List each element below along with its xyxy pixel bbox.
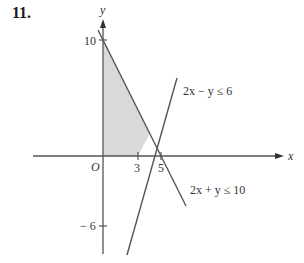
inequality-label-2x-plus-y: 2x + y ≤ 10	[190, 183, 245, 197]
tick-label-x-3: 3	[134, 161, 140, 175]
tick-label-y-10: 10	[84, 34, 96, 48]
y-axis-label: y	[99, 3, 106, 17]
inequality-label-2x-minus-y: 2x − y ≤ 6	[183, 84, 232, 98]
x-axis-arrow-icon	[275, 153, 284, 159]
y-axis-arrow-icon	[100, 19, 106, 28]
tick-label-x-5: 5	[158, 161, 164, 175]
linear-inequality-graph: 11. y x O 10 − 6 3 5 2x − y ≤ 6 2x + y ≤…	[0, 0, 304, 263]
feasible-region	[103, 40, 150, 156]
tick-label-y-neg6: − 6	[80, 219, 96, 233]
graph-canvas: y x O 10 − 6 3 5 2x − y ≤ 6 2x + y ≤ 10	[0, 0, 304, 263]
x-axis-label: x	[287, 149, 294, 163]
problem-number: 11.	[12, 4, 31, 22]
origin-label: O	[91, 160, 100, 174]
